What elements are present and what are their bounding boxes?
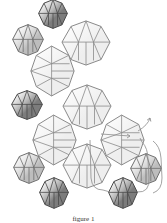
figure-caption: figure 1 bbox=[0, 215, 167, 223]
bead-pattern-diagram bbox=[0, 0, 167, 223]
thread-path-layer bbox=[0, 0, 167, 223]
thread-line bbox=[90, 118, 162, 193]
